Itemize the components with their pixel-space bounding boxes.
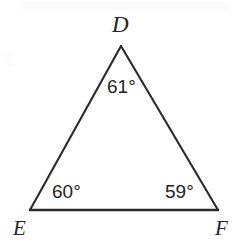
geometry-figure-triangle-def: D E F 61° 60° 59° (0, 0, 244, 251)
vertex-label-e: E (13, 218, 26, 239)
vertex-label-f: F (215, 218, 228, 239)
triangle-shape-svg (0, 0, 244, 251)
angle-measure-f: 59° (165, 182, 194, 201)
angle-measure-e: 60° (52, 182, 81, 201)
vertex-label-d: D (112, 13, 129, 36)
angle-measure-d: 61° (107, 77, 136, 96)
